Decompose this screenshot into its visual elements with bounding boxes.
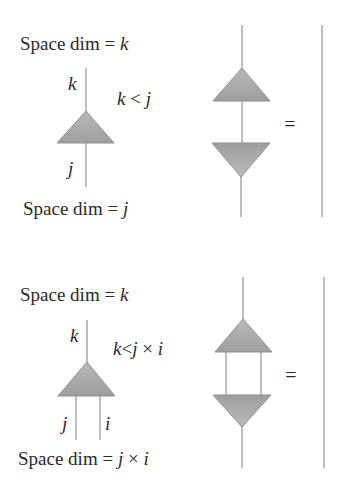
panel2-top-space-dim-label: Space dim = k — [20, 284, 129, 305]
panel1-upper-index-k: k — [68, 73, 77, 94]
panel2-upper-index-k: k — [70, 325, 79, 346]
panel1-contraction — [212, 25, 270, 217]
panel2-isometry-triangle-icon-upper — [215, 319, 272, 352]
panel2-isometry-triangle-icon — [58, 362, 115, 396]
panel2-contraction — [213, 277, 272, 468]
panel2-bottom-space-dim-label: Space dim = j × i — [18, 448, 149, 469]
panel2-lower-index-i: i — [105, 413, 110, 434]
panel2-lower-index-j: j — [59, 413, 67, 434]
panel1-isometry-triangle-icon-upper — [213, 68, 270, 101]
panel1-equals-sign: = — [284, 113, 295, 135]
panel1-bottom-space-dim-label: Space dim = j — [23, 198, 128, 219]
panel2-isometry-tensor: k j i — [58, 320, 115, 440]
panel1-isometry-triangle-icon — [57, 111, 114, 143]
panel2-isometry-dagger-triangle-icon — [213, 395, 271, 427]
panel1-isometry-dagger-triangle-icon — [212, 143, 270, 177]
panel-2-isometry: Space dim = k k j i k<j × i Space dim = … — [18, 277, 324, 469]
panel1-isometry-tensor: k j — [57, 68, 114, 187]
panel1-condition: k < j — [117, 88, 151, 109]
isometry-diagram: Space dim = k k j k < j Space dim = j = … — [0, 0, 341, 490]
panel2-equals-sign: = — [285, 364, 296, 386]
panel-1-isometry: Space dim = k k j k < j Space dim = j = — [20, 25, 322, 219]
panel1-lower-index-j: j — [65, 158, 73, 179]
panel1-top-space-dim-label: Space dim = k — [20, 33, 129, 54]
panel2-condition: k<j × i — [113, 338, 163, 359]
